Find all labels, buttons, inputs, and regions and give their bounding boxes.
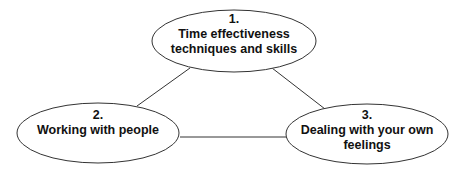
edge-1-2 [137, 68, 190, 106]
node-2-number: 2. [18, 108, 178, 123]
node-2-line1: Working with people [18, 123, 178, 138]
node-3-line1: Dealing with your own [287, 123, 447, 138]
node-1-number: 1. [154, 12, 314, 27]
node-3-label: 3. Dealing with your own feelings [287, 108, 447, 153]
node-1-line2: techniques and skills [154, 42, 314, 57]
node-2-label: 2. Working with people [18, 108, 178, 138]
edge-1-3 [272, 68, 325, 109]
node-3-number: 3. [287, 108, 447, 123]
node-1-label: 1. Time effectiveness techniques and ski… [154, 12, 314, 57]
node-3-line2: feelings [287, 138, 447, 153]
node-1-line1: Time effectiveness [154, 27, 314, 42]
